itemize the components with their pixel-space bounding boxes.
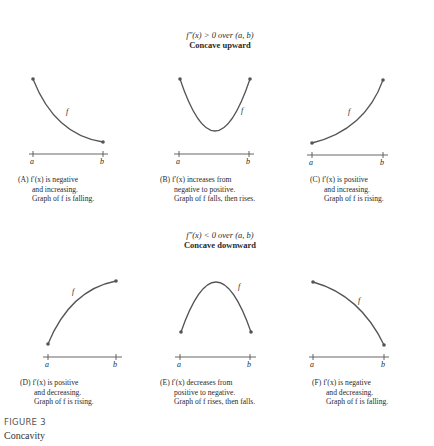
caption-line: (C) f′(x) is positive — [310, 175, 384, 185]
caption-panel-b: (B) f′(x) increases from negative to pos… — [160, 175, 255, 204]
caption-line: (E) f′(x) decreases from — [160, 378, 255, 388]
curve-label-d: f — [72, 287, 74, 296]
caption-line: Graph of f is falling. — [18, 194, 94, 204]
caption-line: positive to negative. — [160, 388, 255, 398]
curve-label-a: f — [66, 107, 68, 116]
caption-line: and decreasing. — [312, 388, 388, 398]
caption-line: negative to positive. — [160, 185, 255, 195]
curve-label-b: f — [241, 106, 243, 115]
caption-line: Graph of f rises, then falls. — [160, 397, 255, 407]
curve-panel-f — [313, 282, 384, 345]
axis-label-e-b: b — [247, 360, 251, 369]
caption-panel-c: (C) f′(x) is positive and increasing. Gr… — [310, 175, 384, 204]
caption-line: (D) f′(x) is positive — [20, 378, 94, 388]
curve-panel-d — [48, 281, 116, 344]
caption-panel-d: (D) f′(x) is positive and decreasing. Gr… — [20, 378, 94, 407]
caption-line: (B) f′(x) increases from — [160, 175, 255, 185]
axis-label-c-a: a — [309, 158, 313, 167]
axis-label-f-a: a — [310, 360, 314, 369]
curve-panel-b — [180, 79, 250, 131]
curve-label-f: f — [358, 296, 360, 305]
caption-line: Graph of f is falling. — [312, 397, 388, 407]
curve-label-e: f — [238, 282, 240, 291]
caption-line: Graph of f is rising. — [20, 397, 94, 407]
axis-label-e-a: a — [177, 360, 181, 369]
caption-panel-a: (A) f′(x) is negative and increasing. Gr… — [18, 175, 94, 204]
curve-label-c: f — [348, 107, 350, 116]
caption-line: and increasing. — [18, 185, 94, 195]
axis-label-a-a: a — [30, 157, 34, 166]
caption-line: Graph of f is rising. — [310, 194, 384, 204]
axis-label-a-b: b — [100, 157, 104, 166]
curve-panel-e — [181, 282, 251, 332]
caption-panel-f: (F) f′(x) is negative and decreasing. Gr… — [312, 378, 388, 407]
caption-line: (F) f′(x) is negative — [312, 378, 388, 388]
caption-line: and decreasing. — [20, 388, 94, 398]
axis-label-d-a: a — [45, 360, 49, 369]
caption-line: and increasing. — [310, 185, 384, 195]
axis-label-d-b: b — [113, 360, 117, 369]
caption-line: (A) f′(x) is negative — [18, 175, 94, 185]
axis-label-f-b: b — [381, 360, 385, 369]
axis-label-b-a: a — [176, 157, 180, 166]
figure-title: Concavity — [4, 430, 45, 441]
caption-line: Graph of f falls, then rises. — [160, 194, 255, 204]
axis-label-c-b: b — [380, 158, 384, 167]
figure-number: FIGURE 3 — [4, 417, 46, 427]
axis-label-b-b: b — [246, 157, 250, 166]
caption-panel-e: (E) f′(x) decreases from positive to neg… — [160, 378, 255, 407]
